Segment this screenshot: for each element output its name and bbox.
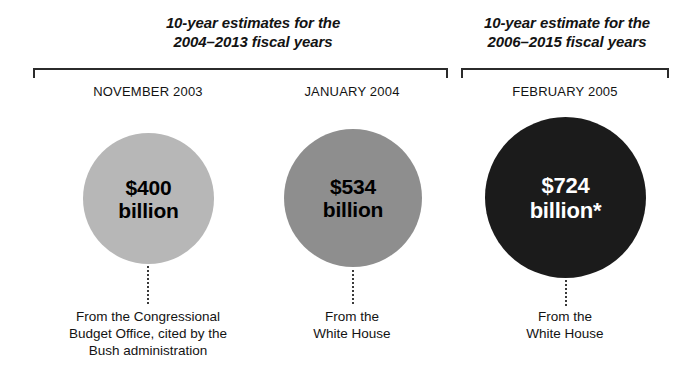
value-circle-2-unit: billion <box>323 198 383 221</box>
source-caption-2: From the White House <box>272 308 432 342</box>
value-circle-3-unit: billion* <box>530 198 602 223</box>
value-circle-2-amount: $534 <box>323 175 383 198</box>
value-circle-2-label: $534 billion <box>323 175 383 221</box>
source-caption-3-line2: White House <box>485 325 645 342</box>
value-circle-1-label: $400 billion <box>118 176 178 222</box>
date-label-february-2005: FEBRUARY 2005 <box>485 84 645 100</box>
value-circle-400-billion: $400 billion <box>83 133 214 264</box>
date-label-november-2003: NOVEMBER 2003 <box>68 84 228 100</box>
group-heading-left-line1: 10-year estimates for the <box>118 13 388 32</box>
source-caption-2-line1: From the <box>272 308 432 325</box>
date-label-january-2004: JANUARY 2004 <box>272 84 432 100</box>
group-heading-left: 10-year estimates for the 2004–2013 fisc… <box>118 13 388 51</box>
value-circle-1-amount: $400 <box>118 176 178 199</box>
leader-line-3 <box>565 280 569 306</box>
source-caption-1-line3: Bush administration <box>28 342 268 359</box>
source-caption-1-line2: Budget Office, cited by the <box>28 325 268 342</box>
group-heading-left-line2: 2004–2013 fiscal years <box>118 32 388 51</box>
leader-line-1 <box>147 266 151 304</box>
source-caption-2-line2: White House <box>272 325 432 342</box>
infographic-canvas: 10-year estimates for the 2004–2013 fisc… <box>0 0 694 377</box>
value-circle-1-unit: billion <box>118 199 178 222</box>
group-heading-right-line1: 10-year estimate for the <box>448 13 686 32</box>
source-caption-1-line1: From the Congressional <box>28 308 268 325</box>
source-caption-3: From the White House <box>485 308 645 342</box>
group-heading-right: 10-year estimate for the 2006–2015 fisca… <box>448 13 686 51</box>
value-circle-534-billion: $534 billion <box>284 129 422 267</box>
group-bracket-left <box>33 68 448 78</box>
leader-line-2 <box>352 270 356 304</box>
value-circle-724-billion: $724 billion* <box>485 117 646 278</box>
group-bracket-right <box>461 68 669 78</box>
group-heading-right-line2: 2006–2015 fiscal years <box>448 32 686 51</box>
source-caption-3-line1: From the <box>485 308 645 325</box>
value-circle-3-label: $724 billion* <box>530 173 602 223</box>
value-circle-3-amount: $724 <box>530 173 602 198</box>
source-caption-1: From the Congressional Budget Office, ci… <box>28 308 268 359</box>
